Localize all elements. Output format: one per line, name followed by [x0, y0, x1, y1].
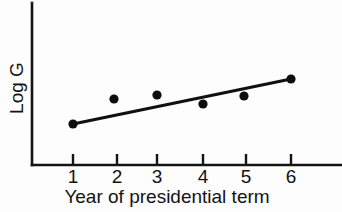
data-point-3 — [152, 90, 161, 99]
data-point-2 — [109, 94, 118, 103]
y-axis-label: Log G — [7, 52, 27, 124]
chart-figure: 1 2 3 4 5 6 Log G Year of presidential t… — [0, 0, 342, 212]
x-tick-label-2: 2 — [104, 167, 130, 187]
x-axis-label: Year of presidential term — [22, 186, 312, 208]
data-point-5 — [239, 91, 248, 100]
data-point-6 — [286, 74, 295, 83]
trend-line — [73, 79, 291, 124]
data-point-1 — [68, 119, 77, 128]
x-tick-label-6: 6 — [278, 167, 304, 187]
x-tick-label-5: 5 — [233, 167, 259, 187]
x-tick-label-4: 4 — [190, 167, 216, 187]
x-tick-label-1: 1 — [60, 167, 86, 187]
x-tick-label-3: 3 — [144, 167, 170, 187]
data-point-4 — [198, 99, 207, 108]
